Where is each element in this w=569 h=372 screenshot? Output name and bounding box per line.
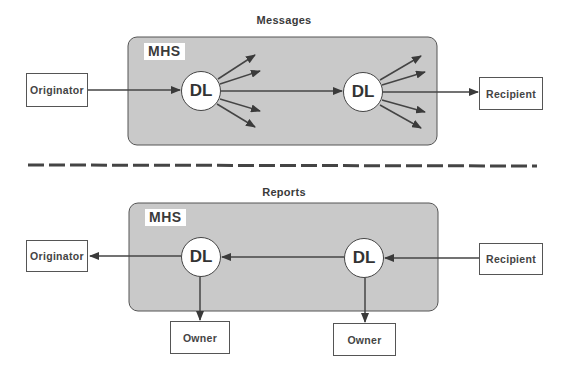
dl-node-messages-2: DL <box>343 72 383 112</box>
recipient-box-reports: Recipient <box>479 243 543 275</box>
separator-dashed-line <box>28 165 537 166</box>
dl-node-reports-1: DL <box>181 237 221 277</box>
messages-title: Messages <box>234 14 334 26</box>
dl-node-messages-1: DL <box>181 71 221 111</box>
mhs-label-reports: MHS <box>145 209 186 226</box>
owner-box-1: Owner <box>170 321 230 354</box>
originator-box-messages: Originator <box>26 73 88 107</box>
reports-title: Reports <box>234 186 334 198</box>
recipient-box-messages: Recipient <box>479 77 543 110</box>
originator-box-reports: Originator <box>26 240 88 272</box>
mhs-label-messages: MHS <box>144 43 185 60</box>
owner-box-2: Owner <box>333 323 396 356</box>
dl-node-reports-2: DL <box>344 238 384 278</box>
